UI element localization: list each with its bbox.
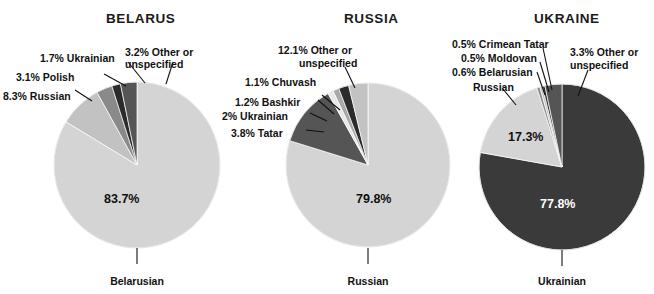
callout-russia-other: 12.1% Other or [278,44,352,57]
callout-ukraine-other2: unspecified [570,59,628,72]
callout-ukraine-russian: Russian [473,81,514,94]
pie-bottom-label-russia: Russian [308,275,428,288]
callout-belarus-russian: 8.3% Russian [3,90,71,103]
callout-belarus-other2: unspecified [125,58,183,71]
callout-russia-tatar: 3.8% Tatar [231,127,283,140]
callout-russia-chuvash: 1.1% Chuvash [245,76,316,89]
leader-line [543,48,552,90]
pie-russia [286,83,450,247]
pie-belarus [54,82,220,248]
chart-title-belarus: BELARUS [106,11,175,26]
slice-value-ukraine-secondary: 17.3% [508,130,543,144]
chart-title-russia: RUSSIA [344,11,399,26]
callout-belarus-ukrainian: 1.7% Ukrainian [40,52,115,65]
pie-ukraine [479,84,645,250]
callout-russia-ukrainian: 2% Ukrainian [222,110,288,123]
callout-ukraine-belarusian: 0.6% Belarusian [452,66,533,79]
leader-line [104,74,126,86]
leader-line [75,90,92,101]
chart-title-ukraine: UKRAINE [534,11,600,26]
slice-value-ukraine-main: 77.8% [540,197,575,211]
callout-ukraine-moldovan: 0.5% Moldovan [461,52,537,65]
callout-belarus-other: 3.2% Other or [125,46,193,59]
callout-ukraine-other: 3.3% Other or [570,46,638,59]
pie-bottom-label-ukraine: Ukrainian [502,275,622,288]
slice-value-russia-main: 79.8% [356,192,391,206]
callout-belarus-polish: 3.1% Polish [16,71,74,84]
callout-ukraine-crimean: 0.5% Crimean Tatar [452,38,549,51]
pie-bottom-label-belarus: Belarusian [77,275,197,288]
callout-russia-bashkir: 1.2% Bashkir [235,96,300,109]
slice-value-belarus-main: 83.7% [104,192,139,206]
pie-chart-figure: BELARUS83.7%Belarusian8.3% Russian3.1% P… [0,0,654,294]
callout-russia-other2: unspecified [299,57,357,70]
